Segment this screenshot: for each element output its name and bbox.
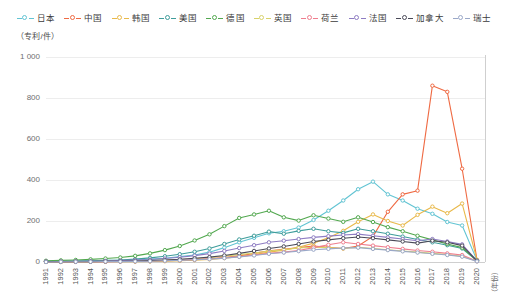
- data-point: [193, 258, 196, 261]
- data-point: [475, 260, 478, 263]
- data-point: [252, 243, 255, 246]
- data-point: [356, 242, 359, 245]
- data-point: [327, 247, 330, 250]
- data-point: [178, 244, 181, 247]
- data-point: [282, 216, 285, 219]
- x-axis-tick-label: 2015: [398, 268, 407, 285]
- data-point: [133, 254, 136, 257]
- data-point: [89, 260, 92, 263]
- data-point: [356, 246, 359, 249]
- x-axis-tick-label: 2017: [427, 268, 436, 285]
- data-point: [446, 220, 449, 223]
- data-point: [327, 230, 330, 233]
- data-point: [44, 260, 47, 263]
- data-point: [238, 216, 241, 219]
- data-point: [342, 237, 345, 240]
- data-point: [59, 260, 62, 263]
- x-axis-tick-label: 2001: [190, 268, 199, 285]
- data-point: [460, 167, 463, 170]
- data-point: [356, 188, 359, 191]
- data-point: [416, 213, 419, 216]
- data-point: [297, 249, 300, 252]
- data-point: [371, 230, 374, 233]
- y-axis-tick-label: 0: [36, 257, 41, 266]
- data-point: [297, 242, 300, 245]
- x-axis-tick-label: 2012: [353, 268, 362, 285]
- data-point: [119, 260, 122, 263]
- x-axis-tick-label: 2003: [219, 268, 228, 285]
- data-point: [223, 256, 226, 259]
- x-axis-tick-label: 2011: [338, 268, 347, 284]
- x-axis-tick-label: 1999: [160, 268, 169, 285]
- data-point: [238, 255, 241, 258]
- x-axis-tick-label: 2000: [175, 268, 184, 285]
- data-point: [446, 212, 449, 215]
- data-point: [416, 189, 419, 192]
- data-point: [282, 239, 285, 242]
- x-axis-tick-label: 2020: [472, 268, 481, 285]
- data-point: [386, 232, 389, 235]
- x-axis-tick-label: 2013: [368, 268, 377, 285]
- y-axis-tick-label: 400: [27, 175, 41, 184]
- data-point: [327, 238, 330, 241]
- x-axis-tick-label: 1997: [130, 268, 139, 285]
- data-point: [267, 209, 270, 212]
- data-point: [267, 230, 270, 233]
- x-axis-tick-label: 2009: [309, 268, 318, 285]
- x-axis-tick-label: 2005: [249, 268, 258, 285]
- data-point: [401, 240, 404, 243]
- data-point: [342, 246, 345, 249]
- data-point: [356, 220, 359, 223]
- y-axis-tick-label: 600: [27, 134, 41, 143]
- chart-screenshot: 日本中国韩国美国德国英国荷兰法国加拿大瑞士 （专利/件） 02004006008…: [0, 0, 508, 308]
- data-point: [401, 230, 404, 233]
- x-axis-tick-label: 2002: [204, 268, 213, 285]
- data-point: [312, 240, 315, 243]
- data-point: [312, 218, 315, 221]
- data-point: [327, 243, 330, 246]
- data-point: [252, 234, 255, 237]
- data-point: [460, 244, 463, 247]
- data-point: [431, 205, 434, 208]
- data-point: [252, 249, 255, 252]
- data-point: [431, 84, 434, 87]
- data-point: [312, 214, 315, 217]
- data-point: [312, 227, 315, 230]
- data-point: [446, 241, 449, 244]
- data-point: [312, 248, 315, 251]
- x-axis-tick-label: 1991: [41, 268, 50, 285]
- data-point: [267, 252, 270, 255]
- data-point: [371, 247, 374, 250]
- data-point: [431, 212, 434, 215]
- data-point: [356, 235, 359, 238]
- x-axis-tick-label: 1993: [71, 268, 80, 285]
- data-point: [193, 250, 196, 253]
- x-axis-tick-label: 2007: [279, 268, 288, 285]
- data-point: [282, 251, 285, 254]
- data-point: [297, 237, 300, 240]
- data-point: [416, 234, 419, 237]
- data-point: [252, 213, 255, 216]
- data-point: [208, 247, 211, 250]
- data-point: [267, 247, 270, 250]
- x-axis-tick-label: 2010: [323, 268, 332, 285]
- x-axis-tick-label: 1995: [100, 268, 109, 285]
- data-point: [74, 260, 77, 263]
- x-axis-tick-label: 2016: [413, 268, 422, 285]
- data-point: [148, 252, 151, 255]
- x-axis-tick-label: 1992: [56, 268, 65, 285]
- data-point: [446, 90, 449, 93]
- x-axis-tick-label: 2014: [383, 268, 392, 285]
- x-axis-tick-label: 2008: [294, 268, 303, 285]
- data-point: [386, 219, 389, 222]
- x-axis-tick-label: 2019: [457, 268, 466, 285]
- data-point: [327, 209, 330, 212]
- x-axis-tick-label: 2006: [264, 268, 273, 285]
- x-axis-tick-label: 1998: [145, 268, 154, 285]
- x-axis-tick-label: 2004: [234, 268, 243, 285]
- data-point: [371, 213, 374, 216]
- data-point: [416, 207, 419, 210]
- data-point: [178, 259, 181, 262]
- y-axis-tick-label: 1 000: [20, 52, 41, 61]
- data-point: [208, 233, 211, 236]
